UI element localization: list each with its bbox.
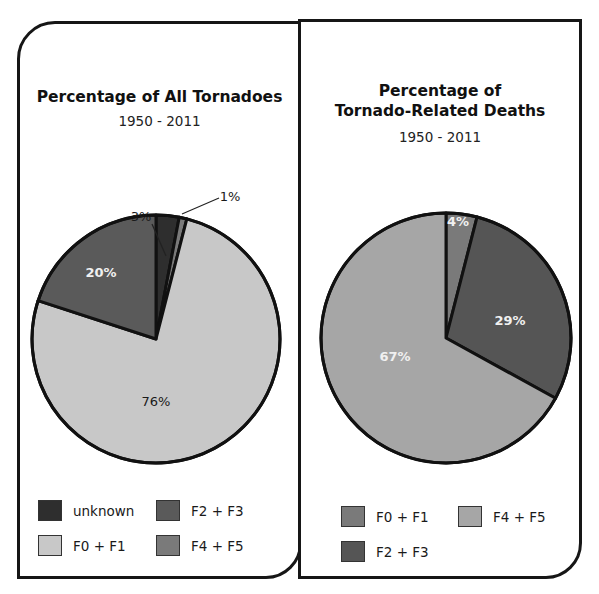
data-label-f4-f5: 67%: [379, 349, 410, 364]
legend-label: F2 + F3: [376, 544, 429, 560]
legend-label: F0 + F1: [73, 538, 126, 554]
legend-label: F4 + F5: [191, 538, 244, 554]
legend-label: F2 + F3: [191, 503, 244, 519]
legend-swatch: [458, 506, 482, 527]
legend-item-f2-f3: F2 + F3: [156, 500, 244, 521]
legend-label: F4 + F5: [493, 509, 546, 525]
data-label-f2-f3: 29%: [494, 313, 525, 328]
legend-label: unknown: [73, 503, 134, 519]
legend-item-f0-f1: F0 + F1: [341, 506, 429, 527]
legend-swatch: [156, 500, 180, 521]
legend-swatch: [341, 541, 365, 562]
legend-label: F0 + F1: [376, 509, 429, 525]
legend-swatch: [38, 500, 62, 521]
legend-swatch: [341, 506, 365, 527]
legend-item-f4-f5: F4 + F5: [156, 535, 244, 556]
legend-swatch: [156, 535, 180, 556]
legend-swatch: [38, 535, 62, 556]
legend-item-f0-f1: F0 + F1: [38, 535, 126, 556]
legend-item-f4-f5: F4 + F5: [458, 506, 546, 527]
data-label-f0-f1: 4%: [447, 214, 469, 229]
legend-item-unknown: unknown: [38, 500, 134, 521]
legend-item-f2-f3: F2 + F3: [341, 541, 429, 562]
